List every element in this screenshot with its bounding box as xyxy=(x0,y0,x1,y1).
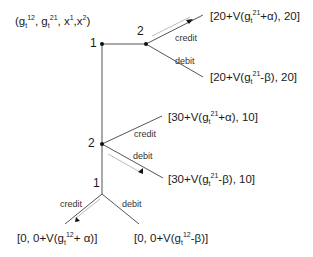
payoff-lower-debit: [30+V(gt21-β), 10] xyxy=(168,174,255,186)
edge-label-upper-credit: credit xyxy=(175,34,197,43)
payoff-upper-debit: [20+V(gt21-β), 20] xyxy=(210,72,297,84)
node-label-lower-p2: 2 xyxy=(88,137,95,149)
edge-label-lower-credit: credit xyxy=(134,130,156,139)
node-label-upper-p2: 2 xyxy=(137,25,144,37)
edge-label-lower-debit: debit xyxy=(133,152,153,161)
edge-lower-debit xyxy=(102,144,163,178)
payoff-bottom-debit: [0, 0+V(gt12-β)] xyxy=(134,233,208,245)
arrowhead-icon xyxy=(75,217,80,222)
edge-label-bottom-credit: credit xyxy=(60,200,82,209)
payoff-upper-credit: [20+V(gt21+α), 20] xyxy=(210,11,300,23)
payoff-bottom-credit: [0, 0+V(gt12+ α)] xyxy=(17,233,97,245)
state-tuple: (gt12, gt21, x1,x2) xyxy=(15,16,90,28)
edge-label-bottom-debit: debit xyxy=(122,200,142,209)
node-label-bottom-p1: 1 xyxy=(93,177,100,189)
node-upper-p2 xyxy=(144,42,148,46)
node-lower-p2 xyxy=(100,142,104,146)
node-root xyxy=(100,42,104,46)
game-tree xyxy=(0,0,313,257)
edge-label-upper-debit: debit xyxy=(175,57,195,66)
payoff-lower-credit: [30+V(gt21+α), 10] xyxy=(168,112,258,124)
node-label-root: 1 xyxy=(90,37,97,49)
